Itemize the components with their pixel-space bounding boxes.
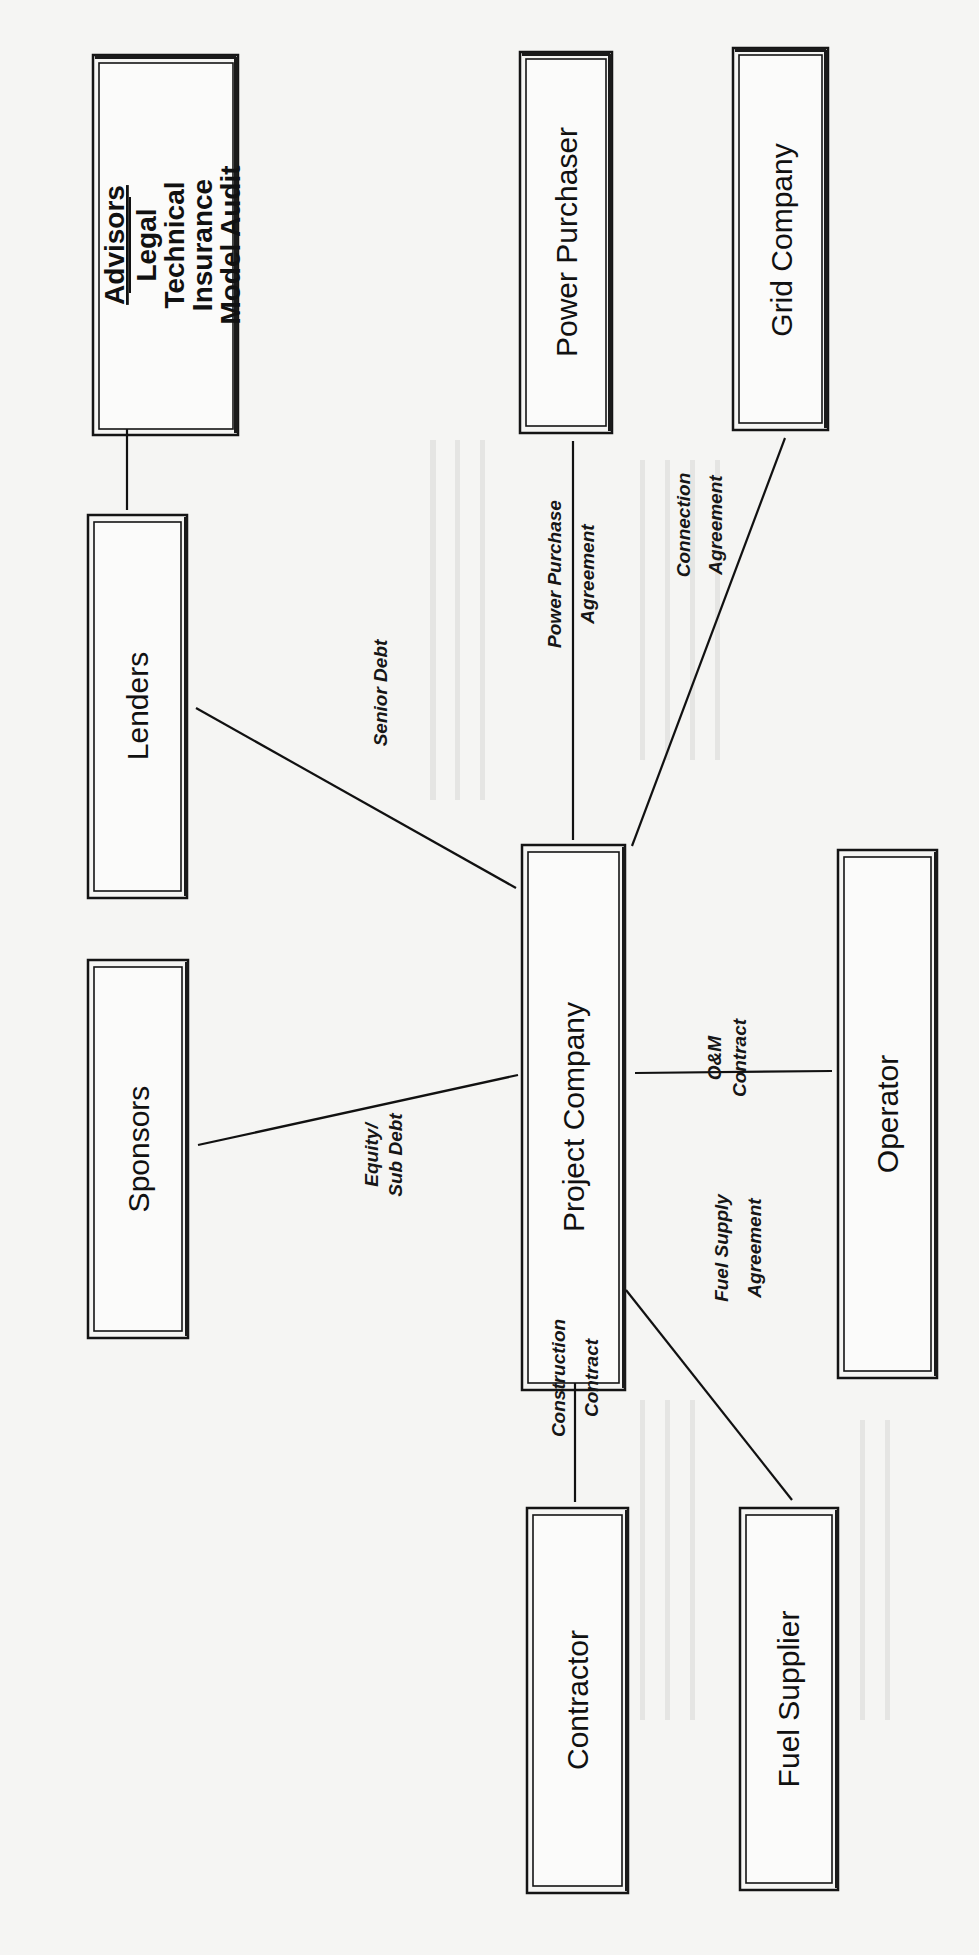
label-om: O&M — [704, 1035, 725, 1081]
contractor-label: Contractor — [561, 1630, 594, 1770]
sponsors-label: Sponsors — [122, 1086, 155, 1213]
label-power-purchase: Power Purchase — [544, 500, 565, 648]
label-senior-debt: Senior Debt — [370, 639, 391, 746]
label-fuel-supply-agreement: Agreement — [744, 1198, 765, 1299]
label-construction: Construction — [548, 1319, 569, 1437]
entity-project-company[interactable]: Project Company — [522, 845, 625, 1390]
operator-label: Operator — [871, 1055, 904, 1173]
project-company-label: Project Company — [557, 1002, 590, 1232]
lenders-label: Lenders — [121, 652, 154, 760]
advisors-item-model-audit: Model Audit — [215, 165, 246, 324]
label-sub-debt: Sub Debt — [385, 1113, 406, 1197]
label-fuel-supply: Fuel Supply — [711, 1193, 732, 1302]
entity-fuel-supplier[interactable]: Fuel Supplier — [740, 1508, 838, 1890]
entity-power-purchaser[interactable]: Power Purchaser — [520, 52, 612, 433]
entity-lenders[interactable]: Lenders — [88, 515, 187, 898]
label-om-contract: Contract — [729, 1018, 750, 1097]
label-pp-agreement: Agreement — [577, 524, 598, 625]
label-connection-agreement: Agreement — [705, 475, 726, 576]
entity-sponsors[interactable]: Sponsors — [88, 960, 188, 1338]
label-construction-contract: Contract — [581, 1338, 602, 1417]
grid-company-label: Grid Company — [765, 143, 798, 336]
advisors-heading: Advisors — [99, 185, 130, 305]
advisors-item-technical: Technical — [159, 181, 190, 308]
advisors-item-legal: Legal — [131, 208, 162, 281]
project-finance-diagram: Advisors Legal Technical Insurance Model… — [0, 0, 979, 1955]
label-connection: Connection — [673, 473, 694, 578]
label-equity: Equity/ — [361, 1122, 382, 1187]
entity-contractor[interactable]: Contractor — [527, 1508, 628, 1893]
entity-grid-company[interactable]: Grid Company — [733, 48, 828, 430]
advisors-item-insurance: Insurance — [187, 179, 218, 311]
fuel-supplier-label: Fuel Supplier — [772, 1611, 805, 1788]
entity-operator[interactable]: Operator — [838, 850, 937, 1378]
power-purchaser-label: Power Purchaser — [550, 127, 583, 357]
entity-advisors[interactable]: Advisors Legal Technical Insurance Model… — [93, 55, 246, 435]
